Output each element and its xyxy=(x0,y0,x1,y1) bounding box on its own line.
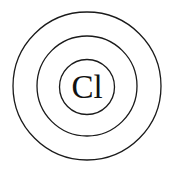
atom-diagram: Cl xyxy=(0,0,176,169)
element-symbol: Cl xyxy=(71,69,102,105)
